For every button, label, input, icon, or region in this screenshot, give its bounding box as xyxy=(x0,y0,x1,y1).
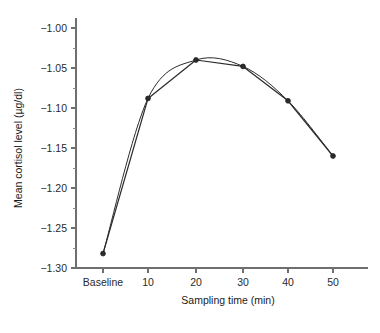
chart-canvas: −1.00−1.05−1.10−1.15−1.20−1.25−1.30 Mean… xyxy=(0,0,380,333)
data-point-marker xyxy=(241,64,246,69)
cortisol-series-line xyxy=(103,60,333,254)
y-tick-label: −1.20 xyxy=(40,182,67,194)
x-tick-label: 20 xyxy=(190,276,202,288)
x-tick-label: Baseline xyxy=(83,276,123,288)
x-tick-label: 40 xyxy=(282,276,294,288)
cortisol-line-chart: −1.00−1.05−1.10−1.15−1.20−1.25−1.30 Mean… xyxy=(0,0,380,333)
x-tick-label: 30 xyxy=(237,276,249,288)
y-tick-label: −1.10 xyxy=(40,102,67,114)
data-point-marker xyxy=(286,98,291,103)
data-point-marker xyxy=(331,154,336,159)
y-tick-label: −1.00 xyxy=(40,22,67,34)
x-axis-tick-labels: Baseline1020304050 xyxy=(83,276,339,288)
x-tick-label: 10 xyxy=(142,276,154,288)
x-axis-major-ticks xyxy=(103,268,333,273)
x-tick-label: 50 xyxy=(327,276,339,288)
smoothed-trend-curve xyxy=(103,58,333,254)
x-axis-group: Baseline1020304050 Sampling time (min) xyxy=(76,268,368,306)
y-tick-label: −1.30 xyxy=(40,262,67,274)
y-tick-label: −1.05 xyxy=(40,62,67,74)
x-axis-title: Sampling time (min) xyxy=(181,294,274,306)
data-point-marker xyxy=(146,96,151,101)
y-axis-title: Mean cortisol level (µg/dl) xyxy=(12,88,24,208)
y-axis-major-ticks xyxy=(71,28,76,268)
data-point-marker xyxy=(101,251,106,256)
y-axis-group: −1.00−1.05−1.10−1.15−1.20−1.25−1.30 Mean… xyxy=(12,18,76,274)
plot-area xyxy=(101,58,336,256)
y-tick-label: −1.15 xyxy=(40,142,67,154)
data-point-markers xyxy=(101,58,336,256)
y-axis-tick-labels: −1.00−1.05−1.10−1.15−1.20−1.25−1.30 xyxy=(40,22,67,274)
y-tick-label: −1.25 xyxy=(40,222,67,234)
data-point-marker xyxy=(194,58,199,63)
